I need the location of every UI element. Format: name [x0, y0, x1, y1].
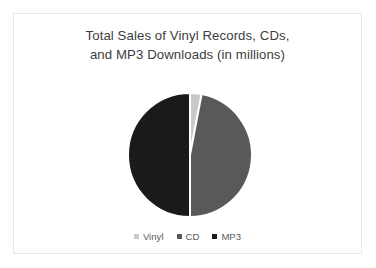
- legend-item-vinyl[interactable]: Vinyl: [134, 231, 164, 242]
- legend-item-mp3[interactable]: MP3: [212, 231, 241, 242]
- legend-label-mp3: MP3: [221, 231, 241, 242]
- pie-slice-cd[interactable]: [190, 94, 252, 217]
- legend-swatch-cd-icon: [177, 234, 182, 239]
- legend-item-cd[interactable]: CD: [177, 231, 200, 242]
- chart-legend: VinylCDMP3: [13, 231, 362, 242]
- pie-chart: Total Sales of Vinyl Records, CDs, and M…: [13, 13, 362, 254]
- legend-label-vinyl: Vinyl: [143, 231, 164, 242]
- pie-slice-group: [128, 93, 252, 217]
- pie-slice-mp3[interactable]: [128, 93, 190, 217]
- legend-swatch-vinyl-icon: [134, 234, 139, 239]
- legend-label-cd: CD: [186, 231, 200, 242]
- pie-svg: [13, 13, 362, 254]
- slide: Total Sales of Vinyl Records, CDs, and M…: [0, 0, 376, 268]
- pie-plot-area: [13, 13, 362, 254]
- legend-swatch-mp3-icon: [212, 234, 217, 239]
